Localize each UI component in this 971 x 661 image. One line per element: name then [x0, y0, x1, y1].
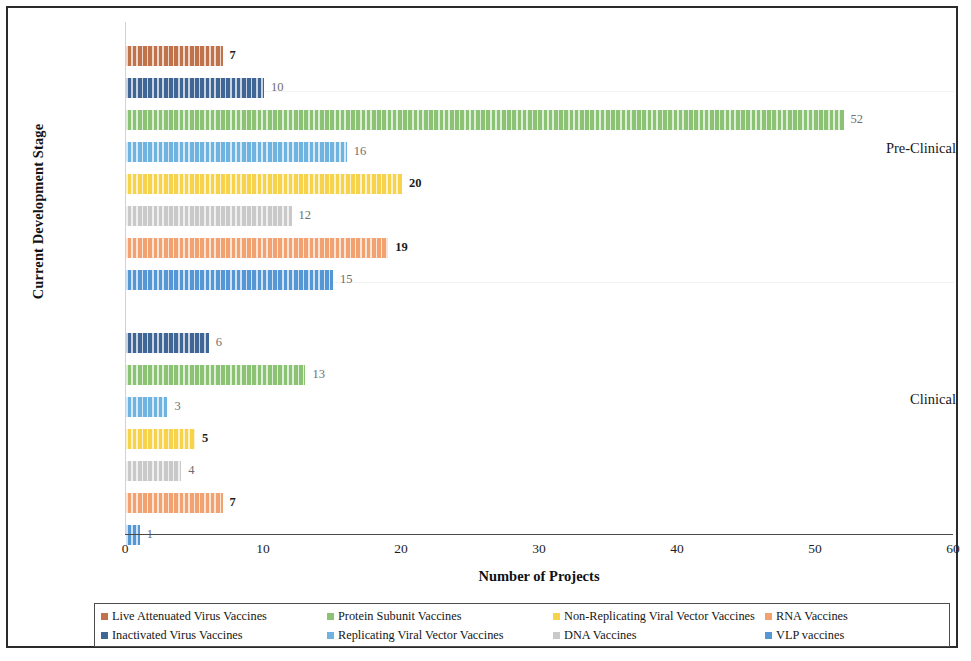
- x-axis-line: [125, 534, 953, 535]
- bar[interactable]: [126, 142, 347, 162]
- bar[interactable]: [126, 78, 264, 98]
- x-tick-label: 20: [377, 541, 425, 557]
- legend-swatch-icon: [327, 632, 334, 639]
- x-axis-title: Number of Projects: [125, 568, 953, 585]
- legend-swatch-icon: [765, 632, 772, 639]
- bar-value-label: 15: [340, 272, 353, 287]
- legend-swatch-icon: [553, 613, 560, 620]
- legend-swatch-icon: [101, 613, 108, 620]
- bar-value-label: 3: [174, 399, 180, 414]
- bar[interactable]: [126, 493, 223, 513]
- legend-item-label: DNA Vaccines: [564, 628, 637, 643]
- legend-swatch-icon: [765, 613, 772, 620]
- legend-item[interactable]: DNA Vaccines: [553, 626, 765, 645]
- legend-grid: Live Attenuated Virus VaccinesProtein Su…: [101, 607, 945, 645]
- bar[interactable]: [126, 429, 195, 449]
- legend-item[interactable]: Non-Replicating Viral Vector Vaccines: [553, 607, 765, 626]
- x-tick-label: 0: [101, 541, 149, 557]
- x-tick-label: 60: [929, 541, 971, 557]
- bar-value-label: 13: [312, 367, 325, 382]
- bar[interactable]: [126, 461, 181, 481]
- legend-item-label: Live Attenuated Virus Vaccines: [112, 609, 267, 624]
- bar-value-label: 6: [216, 335, 222, 350]
- legend-item-label: Non-Replicating Viral Vector Vaccines: [564, 609, 755, 624]
- y-axis-title: Current Development Stage: [30, 92, 47, 332]
- bar-value-label: 5: [202, 431, 208, 446]
- legend-item[interactable]: Replicating Viral Vector Vaccines: [327, 626, 553, 645]
- bar[interactable]: [126, 397, 167, 417]
- bar-value-label: 10: [271, 80, 284, 95]
- bar-value-label: 20: [409, 176, 422, 191]
- x-tick-label: 40: [653, 541, 701, 557]
- bar[interactable]: [126, 206, 292, 226]
- bar-value-label: 7: [230, 495, 236, 510]
- x-tick-label: 10: [239, 541, 287, 557]
- legend-item-label: Replicating Viral Vector Vaccines: [338, 628, 504, 643]
- legend-item[interactable]: VLP vaccines: [765, 626, 945, 645]
- legend-item[interactable]: Inactivated Virus Vaccines: [101, 626, 327, 645]
- bar-value-label: 7: [230, 48, 236, 63]
- legend-swatch-icon: [327, 613, 334, 620]
- legend-item[interactable]: RNA Vaccines: [765, 607, 945, 626]
- legend-item-label: Inactivated Virus Vaccines: [112, 628, 243, 643]
- chart-figure: Current Development Stage Pre-Clinical C…: [6, 6, 958, 648]
- bar-value-label: 12: [299, 208, 312, 223]
- bar[interactable]: [126, 46, 223, 66]
- bar[interactable]: [126, 238, 388, 258]
- bar[interactable]: [126, 365, 305, 385]
- bar[interactable]: [126, 333, 209, 353]
- legend-item[interactable]: Protein Subunit Vaccines: [327, 607, 553, 626]
- bar-value-label: 4: [188, 463, 194, 478]
- legend-item-label: Protein Subunit Vaccines: [338, 609, 461, 624]
- x-tick-label: 30: [515, 541, 563, 557]
- legend-swatch-icon: [101, 632, 108, 639]
- plot-area: 71052162012191561335471: [125, 22, 953, 534]
- legend-item[interactable]: Live Attenuated Virus Vaccines: [101, 607, 327, 626]
- bar[interactable]: [126, 270, 333, 290]
- bar-value-label: 19: [395, 240, 408, 255]
- bar[interactable]: [126, 174, 402, 194]
- bar-value-label: 52: [851, 112, 864, 127]
- legend-item-label: RNA Vaccines: [776, 609, 848, 624]
- legend-item-label: VLP vaccines: [776, 628, 844, 643]
- bar-value-label: 16: [354, 144, 367, 159]
- chart-legend: Live Attenuated Virus VaccinesProtein Su…: [94, 603, 950, 647]
- x-tick-label: 50: [791, 541, 839, 557]
- bar[interactable]: [126, 110, 844, 130]
- legend-swatch-icon: [553, 632, 560, 639]
